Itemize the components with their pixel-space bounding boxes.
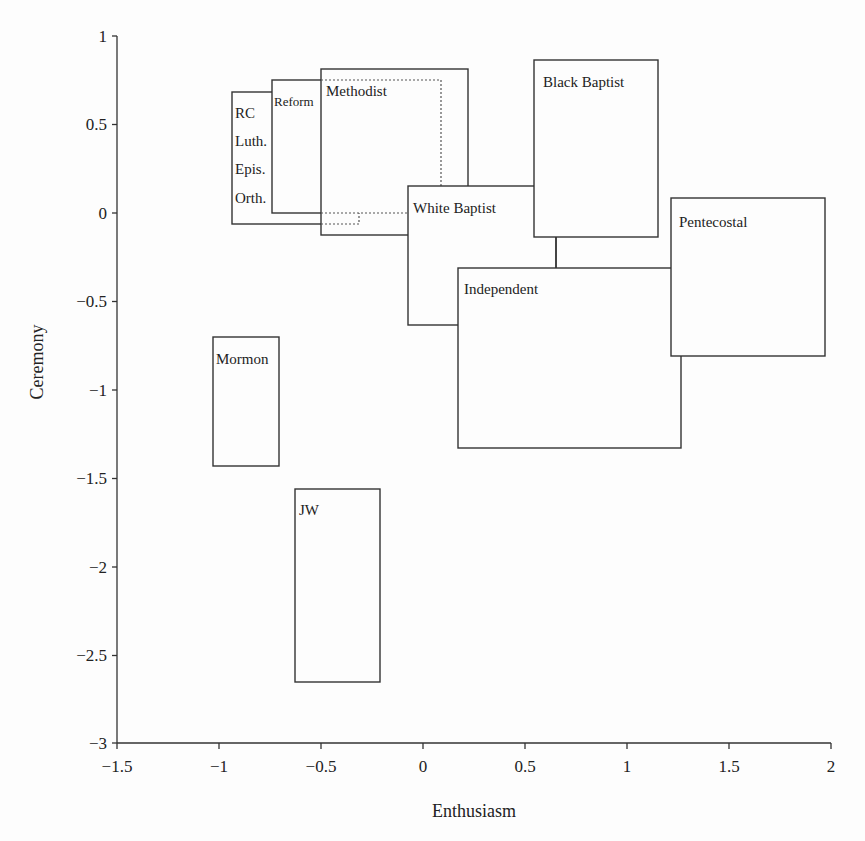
label-reform: Reform bbox=[274, 94, 314, 109]
label-methodist: Methodist bbox=[326, 83, 388, 99]
label-independent: Independent bbox=[464, 281, 539, 297]
y-axis-title: Ceremony bbox=[27, 325, 47, 400]
x-tick-labels: −1.5 −1 −0.5 0 0.5 1 1.5 2 bbox=[102, 757, 836, 776]
label-black-baptist: Black Baptist bbox=[543, 74, 625, 90]
label-rc: RC bbox=[235, 105, 255, 121]
x-tick-label: −1.5 bbox=[102, 757, 133, 776]
label-pentecostal: Pentecostal bbox=[679, 214, 747, 230]
x-tick-label: 0 bbox=[419, 757, 428, 776]
x-tick-label: −1 bbox=[210, 757, 228, 776]
y-tick-label: −2.5 bbox=[76, 646, 107, 665]
y-axis bbox=[112, 36, 117, 743]
label-white-baptist: White Baptist bbox=[413, 200, 497, 216]
label-mormon: Mormon bbox=[216, 351, 269, 367]
x-axis-title: Enthusiasm bbox=[432, 801, 516, 821]
y-tick-labels: 1 0.5 0 −0.5 −1 −1.5 −2 −2.5 −3 bbox=[76, 27, 107, 753]
x-axis bbox=[117, 743, 831, 749]
y-tick-label: −3 bbox=[89, 734, 107, 753]
x-tick-label: −0.5 bbox=[306, 757, 337, 776]
label-jw: JW bbox=[299, 502, 320, 518]
x-tick-label: 2 bbox=[827, 757, 836, 776]
y-tick-label: −2 bbox=[89, 558, 107, 577]
y-tick-label: −1.5 bbox=[76, 469, 107, 488]
y-tick-label: −0.5 bbox=[76, 292, 107, 311]
x-tick-label: 0.5 bbox=[514, 757, 535, 776]
y-tick-label: 0 bbox=[99, 204, 108, 223]
label-orth: Orth. bbox=[235, 190, 266, 206]
regions bbox=[213, 60, 825, 682]
chart: RC Luth. Epis. Orth. Reform Methodist Wh… bbox=[0, 0, 865, 841]
y-tick-label: −1 bbox=[89, 381, 107, 400]
x-tick-label: 1 bbox=[623, 757, 632, 776]
label-luth: Luth. bbox=[235, 133, 267, 149]
y-tick-label: 0.5 bbox=[86, 115, 107, 134]
label-epis: Epis. bbox=[235, 161, 265, 177]
x-tick-label: 1.5 bbox=[718, 757, 739, 776]
y-tick-label: 1 bbox=[99, 27, 108, 46]
